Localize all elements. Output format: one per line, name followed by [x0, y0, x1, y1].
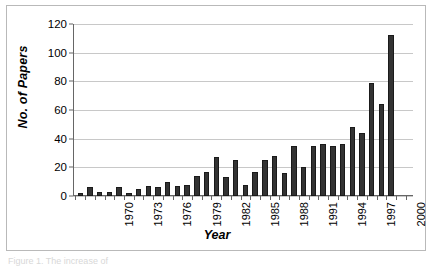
x-tick-mark — [309, 196, 310, 200]
bar — [311, 146, 316, 196]
bar — [204, 172, 209, 196]
x-tick-label: 1970 — [123, 202, 135, 226]
bar — [175, 186, 180, 196]
y-tick-label: 40 — [54, 133, 67, 145]
x-tick-mark — [260, 196, 261, 200]
x-tick-mark — [250, 196, 251, 200]
x-tick-mark — [114, 196, 115, 200]
y-axis-title: No. of Papers — [16, 27, 30, 147]
bar — [388, 35, 393, 196]
x-axis-title: Year — [7, 228, 427, 242]
x-tick-mark — [318, 196, 319, 200]
bar — [136, 189, 141, 196]
x-tick-mark — [202, 196, 203, 200]
x-tick-mark — [270, 196, 271, 200]
bar — [233, 160, 238, 196]
x-tick-mark — [124, 196, 125, 200]
bar — [194, 176, 199, 196]
x-tick-mark — [328, 196, 329, 200]
bar — [350, 127, 355, 196]
bar — [126, 193, 131, 196]
x-tick-mark — [85, 196, 86, 200]
bar — [252, 172, 257, 196]
bar — [165, 182, 170, 196]
bar — [340, 144, 345, 196]
bar-series — [73, 24, 413, 196]
bar — [78, 193, 83, 196]
x-tick-mark — [241, 196, 242, 200]
x-tick-mark — [211, 196, 212, 200]
x-tick-mark — [367, 196, 368, 200]
x-tick-mark — [377, 196, 378, 200]
y-tick-label: 80 — [54, 75, 67, 87]
x-tick-label: 1979 — [211, 202, 223, 226]
x-tick-mark — [192, 196, 193, 200]
x-tick-mark — [347, 196, 348, 200]
x-tick-mark — [396, 196, 397, 200]
x-tick-mark — [182, 196, 183, 200]
x-tick-label: 1997 — [385, 202, 397, 226]
bar — [379, 104, 384, 196]
x-tick-mark — [357, 196, 358, 200]
chart-frame: No. of Papers 020406080100120 1970197319… — [6, 5, 426, 251]
bar — [330, 146, 335, 196]
x-tick-mark — [153, 196, 154, 200]
x-tick-mark — [386, 196, 387, 200]
x-tick-mark — [289, 196, 290, 200]
bar — [369, 83, 374, 196]
bar — [214, 157, 219, 196]
y-tick-label: 0 — [61, 190, 67, 202]
y-tick-label: 120 — [48, 18, 67, 30]
y-tick-label: 100 — [48, 47, 67, 59]
bar — [223, 177, 228, 196]
bar — [87, 187, 92, 196]
x-tick-mark — [338, 196, 339, 200]
x-tick-label: 2000 — [415, 202, 427, 226]
bar — [155, 187, 160, 196]
x-tick-mark — [143, 196, 144, 200]
x-tick-mark — [134, 196, 135, 200]
bar — [282, 173, 287, 196]
x-tick-mark — [105, 196, 106, 200]
x-tick-mark — [231, 196, 232, 200]
bar — [97, 192, 102, 196]
x-tick-label: 1994 — [356, 202, 368, 226]
x-tick-label: 1976 — [181, 202, 193, 226]
x-tick-mark — [221, 196, 222, 200]
x-tick-label: 1973 — [152, 202, 164, 226]
x-tick-label: 1988 — [298, 202, 310, 226]
bar — [146, 186, 151, 196]
bar — [359, 133, 364, 196]
y-tick-label: 60 — [54, 104, 67, 116]
x-tick-mark — [406, 196, 407, 200]
figure-caption: Figure 1. The increase of — [8, 256, 108, 266]
bar — [262, 160, 267, 196]
x-tick-mark — [299, 196, 300, 200]
bar — [116, 187, 121, 196]
x-tick-mark — [75, 196, 76, 200]
x-tick-mark — [95, 196, 96, 200]
bar — [272, 156, 277, 196]
bar — [184, 185, 189, 196]
x-tick-mark — [163, 196, 164, 200]
plot-area: 020406080100120 197019731976197919821985… — [73, 24, 413, 196]
x-tick-label: 1991 — [327, 202, 339, 226]
x-tick-mark — [173, 196, 174, 200]
bar — [301, 167, 306, 196]
figure-container: No. of Papers 020406080100120 1970197319… — [0, 0, 433, 271]
x-tick-label: 1982 — [240, 202, 252, 226]
x-tick-mark — [279, 196, 280, 200]
y-tick-label: 20 — [54, 161, 67, 173]
x-tick-label: 1985 — [269, 202, 281, 226]
bar — [291, 146, 296, 196]
bar — [243, 185, 248, 196]
bar — [320, 144, 325, 196]
bar — [107, 192, 112, 196]
